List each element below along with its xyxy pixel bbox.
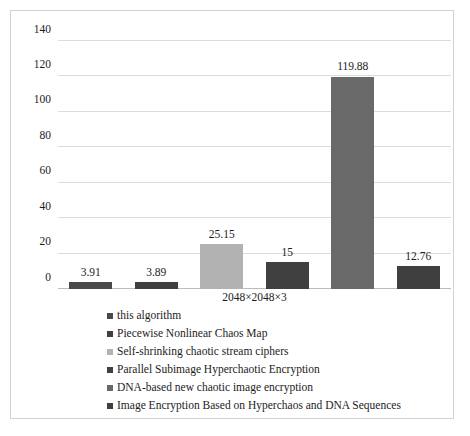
legend-swatch-icon: [107, 367, 113, 373]
bar-group: 3.913.8925.1515119.8812.76: [58, 41, 451, 289]
legend-label: DNA-based new chaotic image encryption: [117, 382, 313, 394]
chart-frame: 020406080100120140 3.913.8925.1515119.88…: [10, 10, 454, 419]
legend-item[interactable]: Piecewise Nonlinear Chaos Map: [107, 325, 437, 343]
bar-slot: 3.91: [69, 41, 112, 289]
bar[interactable]: [266, 262, 309, 289]
bar-value-label: 12.76: [405, 251, 431, 263]
bar[interactable]: [397, 266, 440, 289]
bar-value-label: 15: [281, 247, 293, 259]
legend-item[interactable]: Self-shrinking chaotic stream ciphers: [107, 343, 437, 361]
legend-swatch-icon: [107, 331, 113, 337]
y-tick-label: 20: [40, 236, 52, 248]
legend-swatch-icon: [107, 385, 113, 391]
y-tick-label: 120: [34, 59, 51, 71]
chart-legend: this algorithmPiecewise Nonlinear Chaos …: [107, 307, 437, 415]
bar-value-label: 119.88: [337, 61, 368, 73]
y-tick-label: 80: [40, 130, 52, 142]
legend-label: Image Encryption Based on Hyperchaos and…: [117, 400, 401, 412]
y-tick-label: 60: [40, 165, 52, 177]
legend-item[interactable]: Parallel Subimage Hyperchaotic Encryptio…: [107, 361, 437, 379]
bar-slot: 119.88: [331, 41, 374, 289]
bar-slot: 25.15: [200, 41, 243, 289]
x-axis-category-label: 2048×2048×3: [58, 292, 451, 304]
legend-item[interactable]: this algorithm: [107, 307, 437, 325]
legend-label: this algorithm: [117, 310, 181, 322]
legend-label: Piecewise Nonlinear Chaos Map: [117, 328, 267, 340]
legend-label: Self-shrinking chaotic stream ciphers: [117, 346, 289, 358]
y-tick-label: 100: [34, 95, 51, 107]
bar-slot: 3.89: [135, 41, 178, 289]
plot-area: 020406080100120140 3.913.8925.1515119.88…: [58, 41, 451, 289]
bar[interactable]: [69, 282, 112, 289]
legend-swatch-icon: [107, 313, 113, 319]
bar[interactable]: [331, 77, 374, 289]
bar-value-label: 3.89: [146, 267, 166, 279]
legend-swatch-icon: [107, 403, 113, 409]
bar-slot: 15: [266, 41, 309, 289]
bar-slot: 12.76: [397, 41, 440, 289]
y-tick-label: 140: [34, 24, 51, 36]
legend-label: Parallel Subimage Hyperchaotic Encryptio…: [117, 364, 320, 376]
bar-value-label: 3.91: [81, 267, 101, 279]
bar[interactable]: [200, 244, 243, 289]
bar-value-label: 25.15: [209, 229, 235, 241]
y-tick-label: 0: [45, 272, 51, 284]
bar[interactable]: [135, 282, 178, 289]
legend-item[interactable]: DNA-based new chaotic image encryption: [107, 379, 437, 397]
y-tick-label: 40: [40, 201, 52, 213]
legend-swatch-icon: [107, 349, 113, 355]
legend-item[interactable]: Image Encryption Based on Hyperchaos and…: [107, 397, 437, 415]
